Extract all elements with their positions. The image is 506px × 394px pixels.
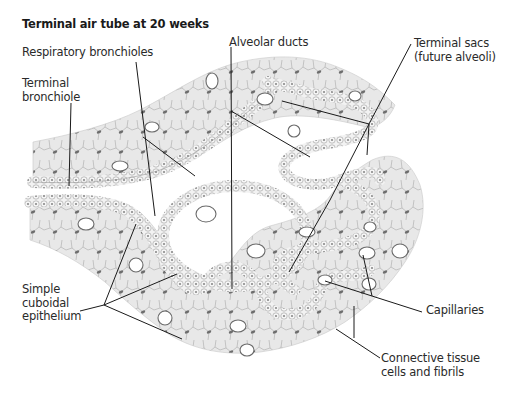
label-terminal-sacs: Terminal sacs (future alveoli) <box>414 37 496 64</box>
label-capillaries: Capillaries <box>426 304 484 318</box>
label-alveolar-ducts: Alveolar ducts <box>229 36 308 50</box>
leader-connective-1 <box>336 329 380 358</box>
label-simple-cuboidal-epithelium: Simple cuboidal epithelium <box>22 283 81 324</box>
label-connective-tissue: Connective tissue cells and fibrils <box>381 352 480 379</box>
label-terminal-bronchiole: Terminal bronchiole <box>22 77 80 104</box>
label-respiratory-bronchioles: Respiratory bronchioles <box>22 46 153 60</box>
